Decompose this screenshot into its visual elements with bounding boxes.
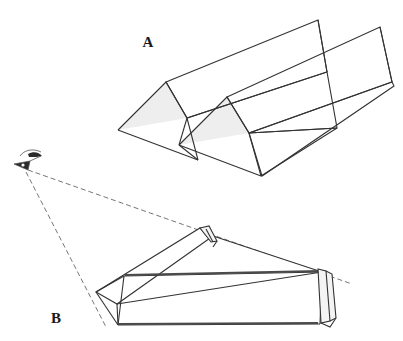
eye-icon-pupil-highlight xyxy=(21,163,24,166)
illustration-root: A B xyxy=(0,0,403,341)
figure-b-face-front-long xyxy=(118,272,322,325)
figure-b-accent-bottom-front xyxy=(119,323,318,324)
label-figure-a: A xyxy=(143,34,154,50)
label-figure-b: B xyxy=(51,310,61,326)
figure-canvas: A B xyxy=(0,0,403,341)
